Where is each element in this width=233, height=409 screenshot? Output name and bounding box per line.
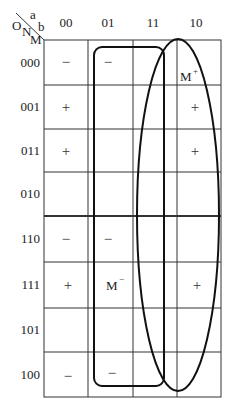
cell: + [193,277,201,293]
column-header: 11 [147,15,160,30]
row-header: 111 [21,277,40,292]
cell: + [62,143,70,159]
corner-label-o: O [12,18,21,33]
column-header: 01 [102,15,115,30]
cell-m-minus: M [106,278,118,293]
cell: − [62,231,70,247]
cell-m-plus: M [180,69,192,84]
column-header: 00 [60,15,73,30]
row-header: 000 [21,55,41,70]
cell: + [191,99,199,115]
corner-label-a: a [30,7,36,22]
row-header: 011 [21,143,40,158]
cell: + [62,99,70,115]
cell: − [108,365,116,381]
cell: + [64,277,72,293]
row-header: 010 [21,186,41,201]
cell: − [64,368,72,384]
row-header: 110 [21,231,40,246]
column-header: 10 [190,15,203,30]
cell: − [104,54,112,70]
cell-m-minus-superscript: − [119,274,124,284]
cell: + [191,143,199,159]
row-header: 100 [21,367,41,382]
cell: − [104,231,112,247]
cells: − − M + + + + + − − + M − + − − [62,54,201,384]
corner-label-m: M [30,32,42,47]
grid [44,40,221,397]
row-header: 101 [21,322,41,337]
row-header: 001 [21,99,41,114]
cell-m-plus-superscript: + [193,66,198,76]
cell: − [62,54,70,70]
karnaugh-map: O a N b M 00 01 11 10 000 001 011 010 11… [0,0,233,409]
